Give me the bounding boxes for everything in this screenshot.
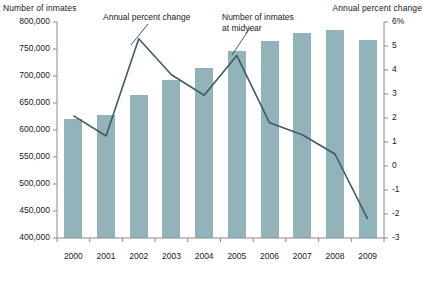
- chart-container: Number of inmates Annual percent change …: [0, 0, 426, 281]
- annotation-leader-percent-change: [131, 24, 148, 45]
- chart-overlay: [0, 0, 426, 281]
- line-series-annual-percent-change: [73, 24, 367, 219]
- annotation-leader-inmates: [232, 28, 250, 55]
- axis-lines: [53, 22, 388, 242]
- annual-percent-change-line: [73, 39, 367, 219]
